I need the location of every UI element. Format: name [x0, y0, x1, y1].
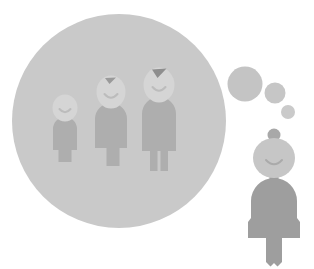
- woman-figure: [248, 129, 300, 267]
- thought-dot-medium: [265, 83, 286, 104]
- memory-child-head: [53, 95, 78, 122]
- woman-body: [248, 178, 300, 267]
- thought-dot-large: [228, 67, 263, 102]
- illustration-svg: [0, 0, 314, 269]
- woman-head: [253, 138, 295, 178]
- illustration-canvas: Woman remembering her childhood A woman …: [0, 0, 314, 269]
- thought-dot-small: [281, 105, 295, 119]
